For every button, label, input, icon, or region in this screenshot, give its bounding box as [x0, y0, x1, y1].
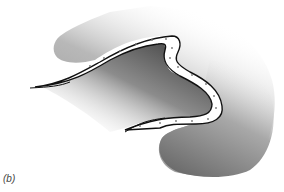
diagram — [0, 0, 284, 192]
panel-label: (b) — [3, 173, 15, 184]
